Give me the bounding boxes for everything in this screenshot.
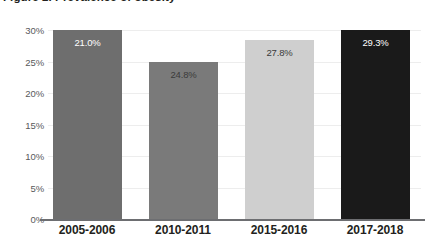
x-tick-label-2017-2018: 2017-2018 (320, 223, 428, 237)
bar-value-label: 27.8% (245, 47, 314, 58)
bar-value-label: 29.3% (341, 37, 410, 48)
bar-2017-2018[interactable]: 29.3% (341, 30, 410, 219)
bar-series: 21.0% 24.8% 27.8% 29.3% (0, 0, 428, 247)
x-tick-label-2015-2016: 2015-2016 (224, 223, 334, 237)
bar-2010-2011[interactable]: 24.8% (149, 62, 218, 219)
x-axis-line (40, 219, 425, 221)
bar-2015-2016[interactable]: 27.8% (245, 40, 314, 219)
bar-value-label: 21.0% (53, 37, 122, 48)
bar-2005-2006[interactable]: 21.0% (53, 30, 122, 219)
x-tick-label-2010-2011: 2010-2011 (128, 223, 238, 237)
x-tick-label-2005-2006: 2005-2006 (32, 223, 142, 237)
bar-value-label: 24.8% (149, 69, 218, 80)
figure-container: Figure 2. Prevalence of obesity 30% 25% … (0, 0, 428, 247)
chart-plot-area: 30% 25% 20% 15% 10% 5% 0% 21.0% 24.8% 27… (0, 0, 428, 247)
